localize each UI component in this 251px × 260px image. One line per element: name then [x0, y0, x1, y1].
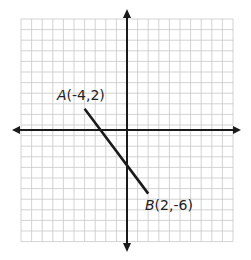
point-a-label: A(-4,2) — [57, 88, 105, 102]
point-b-name: B — [145, 197, 155, 213]
point-a-coords: (-4,2) — [67, 87, 105, 103]
axes — [12, 9, 241, 252]
coordinate-plane — [0, 0, 251, 260]
point-b-coords: (2,-6) — [155, 197, 193, 213]
point-b-label: B(2,-6) — [145, 198, 193, 212]
point-a-name: A — [57, 87, 67, 103]
